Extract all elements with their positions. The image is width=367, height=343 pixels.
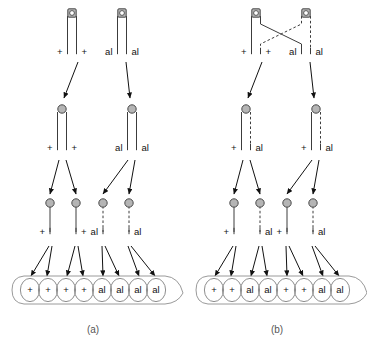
spore-label-b-0: + <box>211 284 217 295</box>
arrow-r3-spore-a-5 <box>105 246 119 276</box>
arrow-r2-r3-2-a <box>103 160 128 194</box>
arrow-r2-r3-0-a <box>50 160 59 194</box>
allele-label-a-r2-left-1: + <box>72 142 78 153</box>
spore: + <box>276 278 295 301</box>
spore: + <box>38 278 57 301</box>
arrow-r2-r3-3-b <box>313 160 319 194</box>
chromosome-a-r2-left: ++ <box>47 105 78 153</box>
spore-label-a-4: al <box>98 284 105 295</box>
spore: al <box>312 278 331 301</box>
centromere-b-r3-3 <box>309 199 317 207</box>
panel-b: ++alal+al+al+al+al++alal++alal(b) <box>196 9 367 335</box>
arrow-r3-spore-a-3 <box>78 246 83 276</box>
allele-label-b-r1-right-1: al <box>316 46 323 57</box>
allele-label-a-r3-2: al <box>91 226 98 237</box>
arrow-r3-spore-b-7 <box>315 246 339 276</box>
spore-label-b-6: al <box>318 284 325 295</box>
chromatid-group-a-3: al <box>125 199 142 237</box>
allele-label-a-r2-right-0: al <box>115 142 122 153</box>
allele-label-b-r2-left-0: + <box>231 142 237 153</box>
allele-label-a-r3-0: + <box>39 226 45 237</box>
figure-canvas: ++alal++alal++alal++++alalalal(a)++alal+… <box>0 0 367 343</box>
arrow-r3-spore-b-6 <box>312 246 323 276</box>
centromere-b-r1-right <box>302 9 310 17</box>
spore-label-a-5: al <box>116 284 123 295</box>
spore-label-a-6: al <box>134 284 141 295</box>
chromatid-group-b-1: al <box>256 199 273 237</box>
centromere-a-r3-1 <box>72 199 80 207</box>
allele-label-b-r2-right-0: + <box>301 142 307 153</box>
arrow-r2-r3-0-b <box>234 160 243 194</box>
row2-b: +al+al <box>231 105 333 153</box>
centromere-core <box>70 11 75 16</box>
centromere-core <box>120 11 125 16</box>
spore: + <box>294 278 313 301</box>
allele-label-b-r3-2: + <box>276 226 282 237</box>
arrow-r3-spore-a-4 <box>102 246 103 276</box>
spore: al <box>240 278 259 301</box>
chromatid-group-a-1: + <box>72 199 87 237</box>
ascus-a: ++++alalalal <box>12 276 183 304</box>
centromere-a-r2-left <box>58 105 66 113</box>
row3-b: +al+al <box>223 199 325 237</box>
arrow-r3-spore-b-1 <box>231 246 236 276</box>
allele-label-a-r2-left-0: + <box>47 142 53 153</box>
chromosome-b-r2-right: +al <box>301 105 333 153</box>
allele-label-b-r1-left-0: + <box>241 46 247 57</box>
spore: + <box>56 278 75 301</box>
spore-label-b-2: al <box>246 284 253 295</box>
spore: + <box>74 278 93 301</box>
allele-label-a-r1-left-1: + <box>82 46 88 57</box>
arrow-r3-spore-b-5 <box>289 246 303 276</box>
panel-caption-a: (a) <box>87 324 99 335</box>
arrow-r3-spore-a-6 <box>128 246 139 276</box>
panels-root: ++alal++alal++alal++++alalalal(a)++alal+… <box>12 9 367 335</box>
arrow-r3-spore-a-2 <box>67 246 75 276</box>
centromere-b-r3-0 <box>230 199 238 207</box>
centromere-a-r1-right <box>118 9 126 17</box>
spore-label-b-1: + <box>229 284 235 295</box>
arrow-r3-spore-a-7 <box>131 246 155 276</box>
centromere-core <box>304 11 309 16</box>
allele-label-a-r2-right-1: al <box>142 142 149 153</box>
allele-label-b-r1-left-1: + <box>266 46 272 57</box>
spore-label-b-3: al <box>264 284 271 295</box>
centromere-b-r3-1 <box>256 199 264 207</box>
allele-label-b-r3-3: al <box>318 226 325 237</box>
chromatid-group-a-0: + <box>39 199 54 237</box>
allele-label-b-r2-right-1: al <box>326 142 333 153</box>
centromere-a-r3-2 <box>99 199 107 207</box>
spore: al <box>330 278 349 301</box>
arrow-r3-spore-a-1 <box>47 246 52 276</box>
spore: + <box>204 278 223 301</box>
allele-label-a-r1-left-0: + <box>57 46 63 57</box>
arrow-r3-spore-b-2 <box>251 246 259 276</box>
spore-label-b-4: + <box>283 284 289 295</box>
spore-label-a-3: + <box>81 284 87 295</box>
spore-label-a-0: + <box>27 284 33 295</box>
centromere-a-r1-left <box>68 9 76 17</box>
chromatid-group-b-3: al <box>309 199 326 237</box>
meiosis-segregation-figure: ++alal++alal++alal++++alalalal(a)++alal+… <box>0 0 367 343</box>
spore-label-a-1: + <box>45 284 51 295</box>
row1-b: ++alal <box>241 9 323 57</box>
spore: + <box>20 278 39 301</box>
chromatid-group-a-2: al <box>91 199 108 237</box>
spore: al <box>258 278 277 301</box>
ascus-b: ++alal++alal <box>196 276 367 304</box>
spore-label-a-2: + <box>63 284 69 295</box>
centromere-b-r2-right <box>312 105 320 113</box>
chromatid-group-b-0: + <box>223 199 238 237</box>
arrow-r1-r2-right-b <box>310 62 314 98</box>
centromere-b-r3-2 <box>283 199 291 207</box>
row1-a: ++alal <box>57 9 139 57</box>
allele-label-a-r1-right-1: al <box>132 46 139 57</box>
arrow-r2-r3-2-b <box>287 160 312 194</box>
arrow-r3-spore-a-0 <box>31 246 49 276</box>
centromere-core <box>254 11 259 16</box>
arrow-r3-spore-b-0 <box>215 246 233 276</box>
centromere-a-r3-3 <box>125 199 133 207</box>
allele-label-b-r1-right-0: al <box>289 46 296 57</box>
arrow-r3-spore-b-3 <box>262 246 267 276</box>
arrow-r2-r3-3-a <box>129 160 135 194</box>
